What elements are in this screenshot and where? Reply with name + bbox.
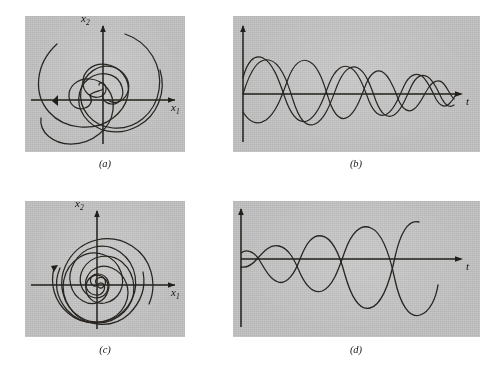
panel-d-t-arrowhead — [455, 256, 463, 262]
panel-b-y-arrowhead — [240, 25, 246, 32]
panel-d-y-arrowhead — [238, 208, 244, 215]
panel-a-canvas — [25, 16, 185, 152]
panel-a-y-arrowhead — [100, 25, 106, 32]
panel-c-axes — [31, 211, 175, 329]
panel-c-x-axis-label: x1 — [171, 287, 180, 301]
panel-d-x-axis-label: t — [466, 261, 469, 272]
panel-d-plot-area — [233, 201, 480, 337]
panel-d-canvas — [233, 201, 480, 337]
panel-c-y-arrowhead — [94, 210, 100, 217]
running-head — [128, 1, 480, 8]
panel-c-caption: (c) — [75, 344, 135, 355]
panel-c-direction-arrowhead — [51, 265, 58, 272]
panel-a-x-axis-label: x1 — [171, 102, 180, 116]
panel-a: x2 x1 — [25, 16, 185, 152]
panel-c-y-axis-label: x2 — [75, 201, 84, 212]
panel-a-trajectories — [39, 34, 163, 144]
panel-c-trajectories — [53, 239, 153, 325]
panel-d-curves — [241, 222, 438, 316]
panel-a-y-axis-label: x2 — [81, 16, 90, 27]
panel-a-direction-arrowhead — [52, 95, 58, 106]
panel-b-caption: (b) — [326, 158, 386, 169]
panel-b-canvas — [233, 16, 480, 152]
panel-b-plot-area — [233, 16, 480, 152]
panel-a-caption: (a) — [75, 158, 135, 169]
panel-c-plot-area — [25, 201, 185, 337]
panel-b-t-arrowhead — [455, 91, 463, 97]
panel-c-canvas — [25, 201, 185, 337]
panel-b-x-axis-label: t — [466, 96, 469, 107]
figure-four-panel-phase-portraits: x2 x1 (a) — [0, 0, 482, 372]
panel-a-plot-area — [25, 16, 185, 152]
panel-b-curves — [243, 57, 455, 125]
panel-b: x1 t — [233, 16, 480, 152]
panel-d-caption: (d) — [326, 344, 386, 355]
panel-c: x2 x1 — [25, 201, 185, 337]
panel-d: x1 t — [233, 201, 480, 337]
